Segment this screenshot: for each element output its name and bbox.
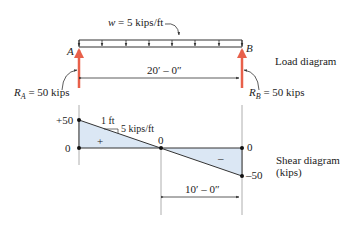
negative-sign: – <box>218 153 224 164</box>
span-label: 20′ – 0″ <box>147 65 182 76</box>
shear-diagram-title: Shear diagram (kips) <box>276 154 340 178</box>
reaction-b-label: RB = 50 kips <box>249 87 304 101</box>
half-span-label: 10′ – 0″ <box>185 184 220 195</box>
positive-sign: + <box>97 136 103 147</box>
reaction-b-value: = 50 kips <box>261 86 305 98</box>
shear-left-zero-value: 0 <box>65 143 71 154</box>
shear-right-bottom-value: –50 <box>246 170 263 181</box>
shear-title-line2: (kips) <box>276 166 340 178</box>
shear-title-line1: Shear diagram <box>276 154 340 166</box>
load-value: = 5 kips/ft <box>115 16 163 28</box>
support-a-label: A <box>67 46 74 57</box>
reaction-a-value: = 50 kips <box>26 86 70 98</box>
distributed-load-arrows <box>79 40 242 46</box>
load-leader-arrow <box>165 24 179 35</box>
shear-mid-zero-value: 0 <box>158 135 164 146</box>
slope-rise-label: 5 kips/ft <box>121 124 154 134</box>
reaction-a-label: RA = 50 kips <box>14 87 69 101</box>
reaction-b-var: R <box>249 86 256 98</box>
slope-run-label: 1 ft <box>101 116 115 126</box>
load-diagram-title: Load diagram <box>275 56 336 67</box>
shear-right-zero-value: 0 <box>247 142 253 153</box>
diagram-canvas <box>0 0 353 228</box>
distributed-load-label: w = 5 kips/ft <box>108 17 163 28</box>
shear-left-top-value: +50 <box>56 115 73 126</box>
beam <box>79 40 242 47</box>
support-b-label: B <box>246 43 253 54</box>
reaction-a-var: R <box>14 86 21 98</box>
